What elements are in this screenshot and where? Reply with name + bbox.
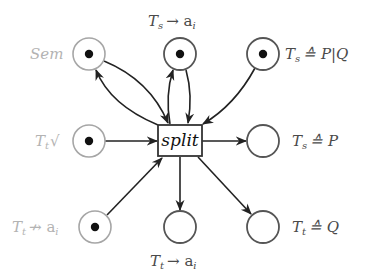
place-circle: [247, 211, 279, 243]
place-label-ts-p: Ts≙ P: [292, 132, 339, 151]
place-label-ts-pq: Ts≙ P|Q: [285, 45, 348, 64]
place-tt-tick: Tt√: [35, 125, 105, 157]
token-dot: [259, 50, 267, 58]
arc-tt-not-ai-to-split: [107, 158, 162, 215]
petri-net-diagram: Sem Ts→ ai Ts≙ P|Q Tt√ Ts≙ P Tt↛ ai Tt→ …: [0, 0, 375, 280]
token-dot: [85, 137, 93, 145]
place-tt-q: Tt≙ Q: [247, 211, 339, 243]
place-circle: [164, 211, 196, 243]
place-ts-p: Ts≙ P: [247, 125, 339, 157]
place-label-tt-ai: Tt→ ai: [150, 252, 197, 271]
place-label-sem: Sem: [30, 45, 63, 63]
place-tt-ai: Tt→ ai: [150, 211, 197, 271]
place-label-tt-not-ai: Tt↛ ai: [12, 218, 59, 237]
place-ts-pq: Ts≙ P|Q: [247, 38, 348, 70]
transition-label: split: [161, 130, 198, 150]
place-circle: [247, 125, 279, 157]
arc-ts-pq-to-split: [203, 68, 255, 124]
place-sem: Sem: [30, 38, 105, 70]
place-ts-ai: Ts→ ai: [148, 12, 196, 70]
place-tt-not-ai: Tt↛ ai: [12, 211, 111, 243]
arc-split-to-sem: [96, 70, 158, 125]
arc-split-to-tt-q: [198, 157, 251, 214]
place-label-ts-ai: Ts→ ai: [148, 12, 196, 31]
transition-split: split: [158, 125, 202, 156]
token-dot: [91, 223, 99, 231]
token-dot: [176, 50, 184, 58]
arc-split-to-ts-ai: [168, 70, 173, 124]
place-label-tt-tick: Tt√: [35, 132, 60, 151]
place-label-tt-q: Tt≙ Q: [292, 218, 339, 237]
arc-ts-ai-to-split: [186, 70, 190, 123]
token-dot: [85, 50, 93, 58]
